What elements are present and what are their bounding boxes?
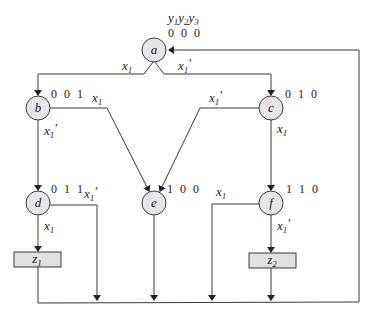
edge-c-to-e xyxy=(160,108,259,191)
edge-b-to-e xyxy=(50,108,149,191)
svg-text:c: c xyxy=(268,100,274,115)
label-a-to-b: x1 xyxy=(121,58,132,75)
state-diagram: y1y2y3 a 0 0 0 b 0 0 1 c 0 1 0 d 0 1 1 xyxy=(0,0,381,314)
label-b-to-e: x1 xyxy=(91,90,102,107)
state-d-code: 0 1 1 xyxy=(51,182,85,196)
label-c-to-e: x1' xyxy=(208,87,222,107)
state-c-code: 0 1 0 xyxy=(285,87,319,101)
output-z1[interactable]: z1 xyxy=(14,251,61,268)
label-d-to-z1: x1 xyxy=(43,218,54,235)
state-a-code: 0 0 0 xyxy=(168,26,202,40)
label-f-to-a: x1 xyxy=(215,184,226,201)
svg-text:a: a xyxy=(151,42,158,57)
svg-text:b: b xyxy=(35,100,42,115)
output-z2[interactable]: z2 xyxy=(249,252,296,269)
state-d[interactable]: d xyxy=(26,191,50,215)
edge-f-to-bus xyxy=(212,204,259,300)
svg-text:e: e xyxy=(151,195,157,210)
svg-text:d: d xyxy=(35,195,42,210)
state-f-code: 1 1 0 xyxy=(286,182,320,196)
state-c[interactable]: c xyxy=(259,96,283,120)
state-e-code: 1 0 0 xyxy=(167,182,201,196)
state-e[interactable]: e xyxy=(142,191,166,215)
label-b-to-d: x1' xyxy=(43,120,57,140)
label-a-to-c: x1' xyxy=(177,55,191,75)
state-variable-header: y1y2y3 xyxy=(166,10,199,27)
state-b[interactable]: b xyxy=(26,96,50,120)
state-f[interactable]: f xyxy=(259,191,283,215)
label-c-to-f: x1 xyxy=(276,121,287,138)
label-d-to-a: x1' xyxy=(83,183,97,203)
state-a[interactable]: a xyxy=(142,38,166,62)
label-f-to-z2: x1' xyxy=(276,215,290,235)
state-b-code: 0 0 1 xyxy=(51,87,85,101)
